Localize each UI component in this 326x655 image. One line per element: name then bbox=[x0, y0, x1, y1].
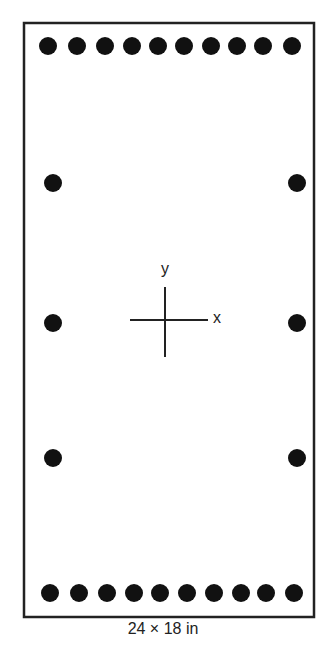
rebar-bottom bbox=[70, 584, 88, 602]
rebar-bottom bbox=[232, 584, 250, 602]
section-dimensions-caption: 24 × 18 in bbox=[0, 620, 326, 638]
rebar-right bbox=[288, 314, 306, 332]
rebar-bottom bbox=[205, 584, 223, 602]
rebar-top bbox=[283, 37, 301, 55]
rebar-bottom bbox=[125, 584, 143, 602]
rebar-left bbox=[44, 449, 62, 467]
rebar-top bbox=[39, 37, 57, 55]
rebar-bottom bbox=[257, 584, 275, 602]
rebar-bottom bbox=[151, 584, 169, 602]
rebar-left bbox=[44, 314, 62, 332]
rebar-bottom bbox=[178, 584, 196, 602]
rebar-top bbox=[175, 37, 193, 55]
rebar-top bbox=[123, 37, 141, 55]
rebar-bottom bbox=[98, 584, 116, 602]
rebar-top bbox=[68, 37, 86, 55]
rebar-top bbox=[149, 37, 167, 55]
rebar-bottom bbox=[41, 584, 59, 602]
rebar-top bbox=[254, 37, 272, 55]
rebar-right bbox=[288, 449, 306, 467]
rebar-left bbox=[44, 174, 62, 192]
rebar-right bbox=[288, 174, 306, 192]
rebar-top bbox=[228, 37, 246, 55]
x-axis-label: x bbox=[213, 309, 221, 327]
centroid-axes bbox=[130, 287, 208, 357]
rebar-bottom bbox=[285, 584, 303, 602]
y-axis-label: y bbox=[161, 260, 169, 278]
rebar-top bbox=[96, 37, 114, 55]
rebar-top bbox=[202, 37, 220, 55]
column-section-diagram bbox=[0, 0, 326, 655]
